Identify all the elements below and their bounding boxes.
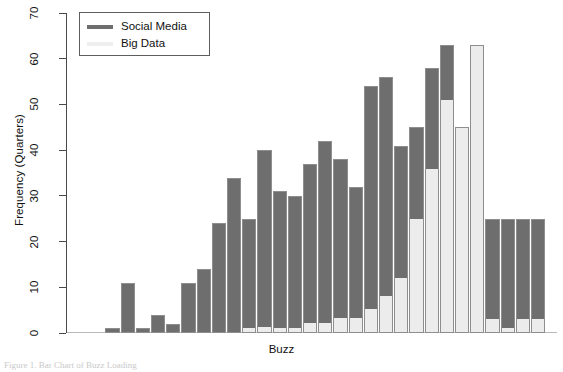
legend-swatch-social-media <box>87 25 113 29</box>
chart-bar <box>273 191 287 333</box>
bar-segment-social-media <box>167 325 179 332</box>
bar-segment-social-media <box>243 220 255 328</box>
bar-segment-big-data <box>471 46 483 332</box>
chart-bar <box>349 187 363 333</box>
chart-bar <box>151 315 165 333</box>
legend-label-big-data: Big Data <box>121 35 165 52</box>
y-axis-tick <box>59 287 66 288</box>
y-axis-tick-label: 10 <box>27 267 41 307</box>
chart-legend: Social Media Big Data <box>79 12 210 56</box>
bar-segment-social-media <box>304 165 316 323</box>
bar-segment-big-data <box>319 323 331 332</box>
bar-segment-big-data <box>365 309 377 332</box>
bar-segment-social-media <box>122 284 134 332</box>
chart-bar <box>455 127 469 333</box>
bar-segment-big-data <box>532 319 544 332</box>
bar-segment-big-data <box>274 328 286 333</box>
y-axis-tick <box>59 333 66 334</box>
legend-entry-big-data: Big Data <box>87 35 165 52</box>
y-axis-tick <box>59 150 66 151</box>
y-axis-tick <box>59 195 66 196</box>
chart-bar <box>379 77 393 333</box>
bar-segment-big-data <box>334 318 346 332</box>
chart-bar <box>288 196 302 333</box>
chart-bar <box>425 68 439 333</box>
bar-segment-social-media <box>410 128 422 219</box>
legend-entry-social-media: Social Media <box>87 18 187 35</box>
y-axis-tick-label: 40 <box>27 130 41 170</box>
y-axis-tick <box>59 58 66 59</box>
legend-swatch-big-data <box>87 42 113 46</box>
bar-segment-big-data <box>258 327 270 332</box>
chart-bar <box>333 159 347 333</box>
bar-segment-social-media <box>258 151 270 327</box>
bar-segment-social-media <box>395 147 407 278</box>
chart-bar <box>364 86 378 333</box>
bar-segment-social-media <box>532 220 544 319</box>
legend-label-social-media: Social Media <box>121 18 187 35</box>
chart-bar <box>197 269 211 333</box>
x-axis-title: Buzz <box>0 343 563 355</box>
bar-segment-big-data <box>304 323 316 332</box>
bar-segment-big-data <box>456 128 468 332</box>
chart-bar <box>485 219 499 333</box>
chart-bar <box>501 219 515 333</box>
bar-segment-social-media <box>137 329 149 332</box>
bar-segment-social-media <box>426 69 438 169</box>
chart-bar <box>166 324 180 333</box>
y-axis-tick-label: 50 <box>27 84 41 124</box>
bar-segment-social-media <box>350 188 362 319</box>
chart-bar <box>318 141 332 333</box>
bar-segment-big-data <box>426 169 438 332</box>
chart-bar <box>227 178 241 333</box>
chart-bar <box>303 164 317 333</box>
y-axis-tick-label: 30 <box>27 176 41 216</box>
y-axis-tick <box>59 241 66 242</box>
bar-segment-social-media <box>228 179 240 332</box>
chart-bar <box>257 150 271 333</box>
bar-segment-social-media <box>289 197 301 328</box>
y-axis-tick-label: 70 <box>27 0 41 33</box>
chart-bar <box>516 219 530 333</box>
figure-caption: Figure 1. Bar Chart of Buzz Loading <box>4 360 304 371</box>
chart-bar <box>121 283 135 333</box>
y-axis-title: Frequency (Quarters) <box>10 0 28 340</box>
y-axis-tick <box>59 104 66 105</box>
y-axis-tick-label: 20 <box>27 222 41 262</box>
chart-bar <box>470 45 484 333</box>
bar-segment-social-media <box>502 220 514 328</box>
bar-segment-social-media <box>365 87 377 309</box>
bar-segment-social-media <box>198 270 210 332</box>
chart-bar <box>242 219 256 333</box>
bar-segment-social-media <box>441 46 453 100</box>
bar-segment-big-data <box>380 296 392 332</box>
bar-segment-social-media <box>213 224 225 332</box>
bar-segment-social-media <box>274 192 286 327</box>
chart-bar <box>409 127 423 333</box>
y-axis-tick <box>59 13 66 14</box>
chart-bar <box>440 45 454 333</box>
chart-bar <box>531 219 545 333</box>
bar-segment-big-data <box>441 100 453 332</box>
chart-bar <box>181 283 195 333</box>
chart-container: Frequency (Quarters) 010203040506070 Soc… <box>0 0 563 372</box>
bar-segment-big-data <box>486 319 498 332</box>
bar-segment-social-media <box>319 142 331 323</box>
plot-area <box>67 13 563 333</box>
chart-bar <box>212 223 226 333</box>
chart-bar <box>394 146 408 333</box>
bar-segment-social-media <box>486 220 498 319</box>
bar-segment-social-media <box>106 329 118 332</box>
bar-segment-social-media <box>517 220 529 319</box>
bar-segment-social-media <box>334 160 346 318</box>
bar-segment-big-data <box>289 328 301 333</box>
chart-bar <box>105 328 119 333</box>
bar-segment-social-media <box>380 78 392 296</box>
bar-segment-big-data <box>350 318 362 332</box>
bar-segment-big-data <box>243 328 255 332</box>
bar-segment-big-data <box>517 319 529 332</box>
bar-segment-big-data <box>502 328 514 332</box>
y-axis-tick-label: 60 <box>27 39 41 79</box>
bar-segment-big-data <box>395 278 407 332</box>
bar-segment-social-media <box>182 284 194 332</box>
